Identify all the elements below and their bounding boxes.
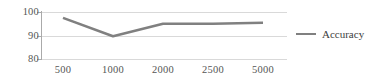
line-chart: 100 90 80 500 1000 2000 2500 5000 Accura… xyxy=(0,0,378,84)
legend-label-accuracy: Accuracy xyxy=(322,28,364,40)
legend: Accuracy xyxy=(296,28,364,40)
legend-swatch-accuracy xyxy=(296,33,316,36)
series-accuracy xyxy=(0,0,378,84)
